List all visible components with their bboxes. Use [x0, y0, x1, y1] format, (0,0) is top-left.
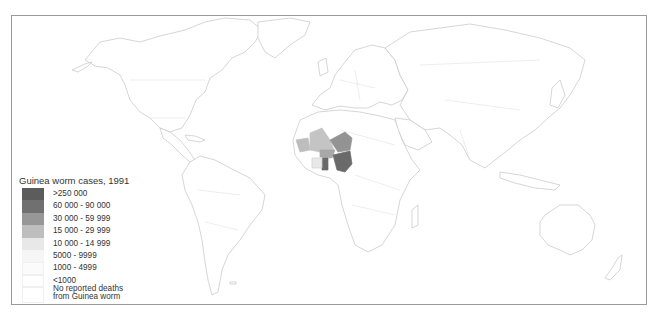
legend-swatch: [22, 275, 44, 287]
legend-swatch: [22, 188, 44, 200]
legend-title: Guinea worm cases, 1991: [19, 175, 129, 186]
legend-label: 15 000 - 29 999: [53, 226, 110, 236]
legend-swatch: [22, 238, 44, 250]
australia: [540, 205, 595, 255]
indonesia: [500, 172, 560, 190]
new-zealand: [605, 255, 622, 280]
legend-label: >250 000: [53, 189, 87, 199]
legend-label: 30 000 - 59 999: [53, 214, 110, 224]
map-legend: Guinea worm cases, 1991 >250 000 60 000 …: [12, 173, 144, 304]
legend-label: 60 000 - 90 000: [53, 201, 110, 211]
greenland: [258, 18, 310, 58]
legend-label: 1000 - 4999: [53, 263, 97, 273]
uk: [318, 58, 328, 76]
legend-swatch: [22, 262, 44, 274]
south-america: [182, 156, 265, 295]
legend-swatch: [22, 287, 44, 303]
country-cote-divoire: [312, 158, 322, 168]
legend-label: from Guinea worm: [53, 292, 120, 302]
legend-swatch: [22, 250, 44, 262]
country-burkina: [320, 150, 335, 158]
north-america: [85, 18, 262, 132]
legend-label: 5000 - 9999: [53, 251, 97, 261]
legend-swatch: [22, 225, 44, 237]
legend-swatch: [22, 200, 44, 212]
legend-label: 10 000 - 14 999: [53, 239, 110, 249]
central-america: [160, 128, 195, 162]
legend-swatch: [22, 213, 44, 225]
country-ghana: [322, 158, 328, 170]
